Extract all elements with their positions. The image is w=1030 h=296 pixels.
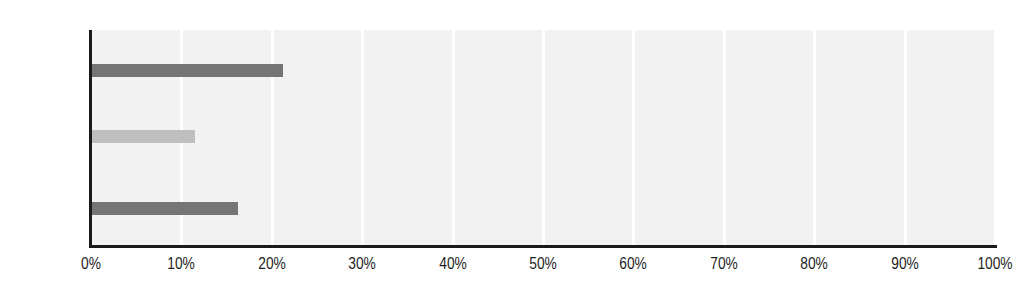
gridline-70% [723, 30, 726, 246]
x-tick-label-100%: 100% [977, 255, 1012, 273]
x-tick-label-0%: 0% [81, 255, 101, 273]
gridline-30% [361, 30, 364, 246]
x-tick-label-30%: 30% [348, 255, 376, 273]
x-tick-label-40%: 40% [439, 255, 467, 273]
bar-chart-figure: MenWomenAll 0%10%20%30%40%50%60%70%80%90… [0, 0, 1030, 296]
bar-all[interactable] [91, 202, 238, 215]
bar-women[interactable] [91, 130, 195, 143]
gridline-80% [813, 30, 816, 246]
gridline-60% [632, 30, 635, 246]
gridline-90% [904, 30, 907, 246]
x-tick-label-90%: 90% [891, 255, 919, 273]
x-tick-label-60%: 60% [620, 255, 648, 273]
y-axis-spine [89, 30, 92, 248]
gridline-50% [542, 30, 545, 246]
plot-area [91, 30, 995, 246]
x-tick-label-50%: 50% [529, 255, 557, 273]
chart-title-clipped [88, 0, 118, 2]
x-tick-label-80%: 80% [800, 255, 828, 273]
gridline-20% [271, 30, 274, 246]
x-tick-label-10%: 10% [168, 255, 196, 273]
x-tick-label-20%: 20% [258, 255, 286, 273]
x-tick-label-70%: 70% [710, 255, 738, 273]
gridline-40% [452, 30, 455, 246]
bar-men[interactable] [91, 64, 283, 77]
gridline-100% [994, 30, 995, 246]
x-axis-spine [89, 245, 997, 248]
